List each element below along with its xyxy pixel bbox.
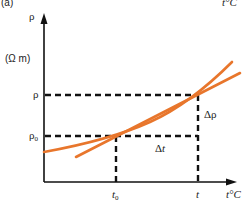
panel-label: (a) (1, 0, 13, 8)
delta-t-label: Δt (155, 142, 166, 154)
y-axis-unit: (Ω m) (5, 53, 30, 64)
corner-label: t°C (222, 0, 237, 8)
axes (41, 13, 238, 186)
x-tick-t: t (196, 188, 200, 200)
y-tick-rho: ρ (33, 88, 39, 100)
delta-rho-label: Δρ (204, 108, 217, 120)
x-axis-arrow-icon (226, 179, 237, 186)
y-axis-arrow-icon (41, 13, 48, 24)
resistivity-diagram: (a) t°C ρ (Ω m) ρ ρ0 Δρ Δt t0 t t°C (0, 0, 248, 207)
y-axis-symbol: ρ (29, 10, 35, 22)
nonlinear-curve (44, 62, 232, 152)
x-axis-unit: t°C (226, 188, 241, 200)
y-tick-rho0: ρ0 (29, 129, 39, 143)
x-tick-t0: t0 (112, 188, 119, 202)
